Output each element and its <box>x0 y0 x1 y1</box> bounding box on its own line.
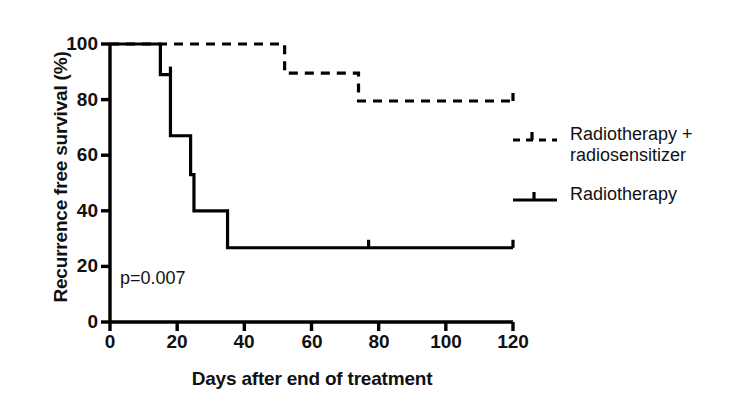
legend-label: Radiotherapy <box>570 184 677 205</box>
legend-item-radiosensitizer: Radiotherapy + radiosensitizer <box>512 124 740 166</box>
legend-key-solid-icon <box>512 187 558 209</box>
legend-key-dashed-icon <box>512 127 558 149</box>
legend-label: Radiotherapy + radiosensitizer <box>570 124 693 166</box>
legend: Radiotherapy + radiosensitizer Radiother… <box>512 124 740 227</box>
series-lines <box>110 44 513 248</box>
legend-item-radiotherapy: Radiotherapy <box>512 184 740 209</box>
kaplan-meier-figure: Recurrence free survival (%) 100 80 60 4… <box>0 0 743 408</box>
axis-lines <box>101 44 513 331</box>
